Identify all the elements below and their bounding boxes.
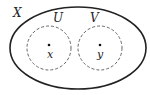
open-set-u-label: U xyxy=(53,11,64,25)
point-y-dot xyxy=(99,44,102,47)
space-x-label: X xyxy=(12,6,22,20)
hausdorff-diagram: X U V x y xyxy=(0,0,150,95)
point-x-dot xyxy=(48,44,51,47)
point-x-label: x xyxy=(47,48,54,61)
space-x-ellipse xyxy=(10,7,146,89)
open-set-v-label: V xyxy=(90,11,100,25)
point-y-label: y xyxy=(96,48,104,61)
